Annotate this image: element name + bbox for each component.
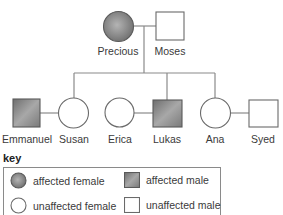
lukas-affected-male-symbol [153,100,182,127]
label-lukas: Lukas [153,133,181,145]
emmanuel-affected-male-symbol [13,99,40,127]
erica-unaffected-female-symbol [105,98,134,127]
syed-unaffected-male-symbol [249,100,278,127]
affected-female-icon [10,172,27,189]
label-emmanuel: Emmanuel [2,133,52,145]
key-label-unaffected-female: unaffected female [33,200,116,212]
key-legend-box: affected female affected male unaffected… [3,167,221,215]
label-moses: Moses [155,45,186,57]
key-item-affected-female: affected female [10,172,105,189]
affected-male-icon [124,172,140,188]
key-label-unaffected-male: unaffected male [146,199,221,211]
unaffected-female-icon [10,197,27,214]
label-erica: Erica [108,133,132,145]
key-label-affected-male: affected male [146,174,209,186]
ana-unaffected-female-symbol [201,98,231,128]
label-susan: Susan [59,133,89,145]
moses-unaffected-male-symbol [156,12,184,40]
key-item-affected-male: affected male [124,172,209,188]
key-item-unaffected-male: unaffected male [124,197,221,213]
label-precious: Precious [98,45,139,57]
key-label-affected-female: affected female [33,175,105,187]
susan-unaffected-female-symbol [59,98,89,128]
label-syed: Syed [251,133,275,145]
key-title: key [3,152,21,164]
label-ana: Ana [206,133,225,145]
precious-affected-female-symbol [104,12,134,42]
unaffected-male-icon [124,197,140,213]
key-item-unaffected-female: unaffected female [10,197,116,214]
